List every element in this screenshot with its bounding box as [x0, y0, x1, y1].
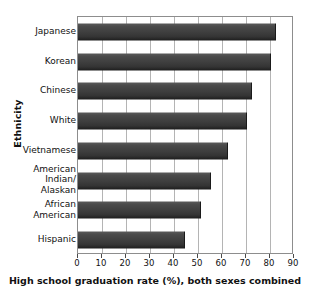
category-label: White [14, 115, 76, 126]
x-axis-ticks: 0102030405060708090 [77, 254, 293, 270]
bar [78, 83, 252, 100]
bar [78, 232, 185, 249]
x-tick-label: 70 [240, 258, 251, 268]
category-label: Hispanic [14, 234, 76, 245]
x-tick-label: 10 [96, 258, 107, 268]
x-tick-label: 80 [264, 258, 275, 268]
x-tick-label: 50 [192, 258, 203, 268]
x-tick-label: 0 [74, 258, 79, 268]
bar [78, 23, 276, 40]
x-tick-label: 40 [168, 258, 179, 268]
x-tick-label: 60 [216, 258, 227, 268]
bar-chart: Ethnicity JapaneseKoreanChineseWhiteViet… [0, 0, 310, 293]
category-label: African American [14, 199, 76, 220]
bar [78, 113, 247, 130]
category-label-list: JapaneseKoreanChineseWhiteVietnameseAmer… [14, 16, 76, 254]
bar [78, 172, 211, 189]
category-label: Chinese [14, 85, 76, 96]
x-tick-label: 30 [144, 258, 155, 268]
bar [78, 53, 271, 70]
bar [78, 142, 228, 159]
x-axis-title: High school graduation rate (%), both se… [0, 275, 310, 286]
category-label: Japanese [14, 26, 76, 37]
x-tick-label: 20 [120, 258, 131, 268]
category-label: Vietnamese [14, 145, 76, 156]
category-label: Korean [14, 55, 76, 66]
x-tick-label: 90 [288, 258, 299, 268]
bar [78, 202, 201, 219]
category-label: American Indian/ Alaskan [14, 164, 76, 196]
plot-area [77, 16, 293, 254]
